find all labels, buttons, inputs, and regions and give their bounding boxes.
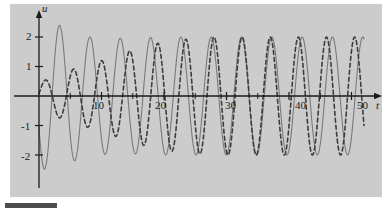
y-axis-label: u — [42, 3, 48, 14]
curve-group — [39, 25, 364, 169]
x-tick-label-20: 20 — [155, 100, 166, 111]
y-tick-label-neg2: -2 — [21, 151, 30, 162]
x-tick-label-30: 30 — [225, 100, 236, 111]
y-tick-label-neg1: -1 — [21, 121, 30, 132]
y-tick-label-1: 1 — [26, 61, 32, 72]
x-tick-label-50: 50 — [357, 100, 368, 111]
x-tick-label-10: 10 — [93, 100, 104, 111]
y-tick-label-2: 2 — [26, 31, 32, 42]
figure-canvas: u t 2 1 -1 -2 10 20 30 40 50 — [0, 0, 390, 212]
bottom-progress-bar — [5, 203, 57, 208]
plot-svg — [0, 0, 390, 212]
x-axis-label: t — [376, 100, 379, 111]
x-tick-label-40: 40 — [295, 100, 306, 111]
